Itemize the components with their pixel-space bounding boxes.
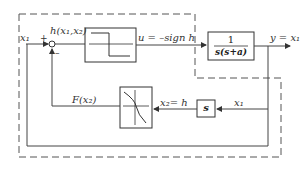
- label-feedback-fn: F(x₂): [72, 95, 96, 105]
- label-plus: +: [40, 34, 48, 43]
- plant-numerator: 1: [208, 35, 254, 45]
- label-minus: –: [55, 49, 60, 58]
- summing-junction: [49, 41, 55, 47]
- label-output: y = x₁: [270, 33, 300, 43]
- label-x1-input: x₁: [20, 33, 30, 43]
- label-control: u = –sign h: [138, 33, 195, 43]
- derivative-label: s: [197, 103, 215, 113]
- block-diagram: [0, 0, 308, 173]
- label-x1-feedback: x₁: [234, 98, 244, 108]
- label-x2: x₂= h: [160, 98, 188, 108]
- plant-denominator: s(s+a): [208, 48, 254, 57]
- label-switch-fn: h(x₁,x₂): [50, 26, 87, 36]
